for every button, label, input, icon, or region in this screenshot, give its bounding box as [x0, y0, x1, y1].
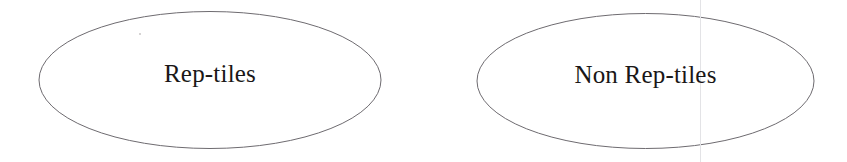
ellipse-label-non-rep-tiles: Non Rep-tiles [477, 62, 814, 87]
diagram-canvas: Rep-tiles Non Rep-tiles [0, 0, 847, 162]
ellipse-label-rep-tiles: Rep-tiles [38, 61, 382, 86]
